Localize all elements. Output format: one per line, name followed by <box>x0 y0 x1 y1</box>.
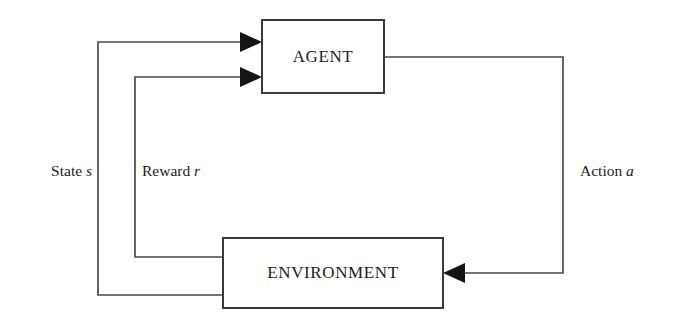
action-arrowhead-icon <box>443 263 465 283</box>
state-arrowhead-icon <box>240 32 262 52</box>
agent-box-label: AGENT <box>293 47 354 66</box>
state-edge-label: State s <box>51 162 92 179</box>
state-label-word: State <box>51 162 82 179</box>
agent-environment-diagram: AGENT ENVIRONMENT State s Reward r Actio… <box>0 0 677 331</box>
action-label-word: Action <box>580 162 622 179</box>
reward-arrowhead-icon <box>240 67 262 87</box>
action-edge-label: Action a <box>580 162 634 179</box>
action-label-variable: a <box>626 162 634 179</box>
reward-label-variable: r <box>194 162 201 179</box>
reward-edge-label: Reward r <box>142 162 201 179</box>
environment-box-label: ENVIRONMENT <box>267 263 398 282</box>
reward-label-word: Reward <box>142 162 190 179</box>
state-label-variable: s <box>86 162 92 179</box>
diagram-root: AGENT ENVIRONMENT State s Reward r Actio… <box>0 0 677 331</box>
